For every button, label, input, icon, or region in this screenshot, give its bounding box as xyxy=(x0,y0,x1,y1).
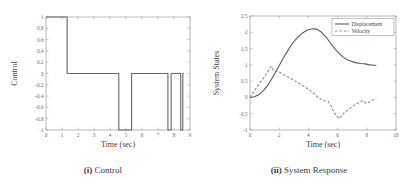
x-tick-label: 9 xyxy=(189,132,192,138)
control-plot: 0123456789-1-0.8-0.6-0.4-0.200.20.40.60.… xyxy=(0,0,206,155)
caption-control: (i) Control xyxy=(0,165,206,175)
x-tick-label: 4 xyxy=(109,132,112,138)
y-axis-title: System States xyxy=(212,51,221,96)
y-tick-label: -0.5 xyxy=(239,111,248,117)
y-tick-label: 0.5 xyxy=(241,78,248,84)
y-tick-label: 0.4 xyxy=(37,48,44,54)
y-tick-label: 1 xyxy=(41,14,44,20)
y-tick-label: 2.5 xyxy=(241,13,248,19)
caption-system-response: (ii) System Response xyxy=(206,165,412,175)
y-tick-label: -0.2 xyxy=(35,82,44,88)
figure-container: 0123456789-1-0.8-0.6-0.4-0.200.20.40.60.… xyxy=(0,0,412,181)
x-tick-label: 6 xyxy=(336,132,339,138)
y-tick-label: 0 xyxy=(245,94,248,100)
y-tick-label: -0.4 xyxy=(35,93,44,99)
series-line-velocity xyxy=(250,66,376,118)
y-tick-label: 0.2 xyxy=(37,59,44,65)
x-tick-label: 5 xyxy=(125,132,128,138)
x-tick-label: 4 xyxy=(307,132,310,138)
y-tick-label: -0.6 xyxy=(35,104,44,110)
caption-system-response-text: System Response xyxy=(284,165,347,175)
y-axis-title: Control xyxy=(10,61,19,86)
panel-system-response: 0246810-1-0.500.511.522.5Time (sec)Syste… xyxy=(206,0,412,181)
caption-control-text: Control xyxy=(95,165,123,175)
x-axis-title: Time (sec) xyxy=(306,140,340,149)
y-tick-label: 2 xyxy=(245,29,248,35)
series-line-control xyxy=(46,17,184,130)
x-tick-label: 0 xyxy=(45,132,48,138)
x-tick-label: 3 xyxy=(93,132,96,138)
legend-label-velocity: Velocity xyxy=(352,28,371,34)
x-tick-label: 8 xyxy=(173,132,176,138)
legend-label-displacement: Displacement xyxy=(352,21,383,27)
y-tick-label: -1 xyxy=(39,127,44,133)
caption-system-response-prefix: (ii) xyxy=(271,165,282,175)
system-response-plot: 0246810-1-0.500.511.522.5Time (sec)Syste… xyxy=(206,0,412,155)
x-axis-title: Time (sec) xyxy=(101,140,135,149)
x-tick-label: 1 xyxy=(61,132,64,138)
x-tick-label: 8 xyxy=(366,132,369,138)
y-tick-label: -1 xyxy=(243,127,248,133)
y-tick-label: -0.8 xyxy=(35,116,44,122)
y-tick-label: 1.5 xyxy=(241,46,248,52)
y-tick-label: 1 xyxy=(245,62,248,68)
x-tick-label: 6 xyxy=(141,132,144,138)
x-tick-label: 10 xyxy=(393,132,399,138)
x-tick-label: 2 xyxy=(77,132,80,138)
x-tick-label: 7 xyxy=(157,132,160,138)
y-tick-label: 0 xyxy=(41,71,44,77)
y-tick-label: 0.8 xyxy=(37,25,44,31)
x-tick-label: 2 xyxy=(278,132,281,138)
caption-control-prefix: (i) xyxy=(84,165,93,175)
x-tick-label: 0 xyxy=(249,132,252,138)
y-tick-label: 0.6 xyxy=(37,37,44,43)
panel-control: 0123456789-1-0.8-0.6-0.4-0.200.20.40.60.… xyxy=(0,0,206,181)
series-line-displacement xyxy=(250,29,376,98)
